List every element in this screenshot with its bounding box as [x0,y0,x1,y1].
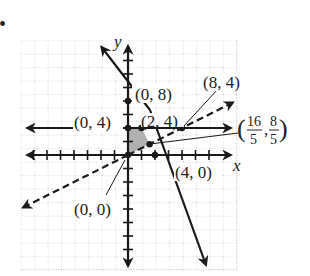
svg-text:5: 5 [250,132,257,147]
label-4-0: (4, 0) [175,163,212,182]
point-0-8 [125,98,131,104]
label-0-8: (0, 8) [135,85,172,104]
svg-text:16: 16 [247,114,261,129]
label-2-4: (2, 4) [141,112,178,131]
svg-text:5: 5 [270,132,277,147]
svg-text:,: , [264,120,268,139]
problem-bullet: • [0,13,6,35]
point-4-0 [152,152,158,158]
point-0-0 [125,152,131,158]
linear-programming-graph: • x y [0,0,310,276]
y-axis-label: y [112,32,122,51]
svg-text:(: ( [237,114,246,143]
svg-text:): ) [279,114,288,143]
label-0-4: (0, 4) [74,113,111,132]
label-8-4: (8, 4) [203,73,240,92]
point-0-4 [125,125,131,131]
x-axis-label: x [232,156,241,175]
label-0-0: (0, 0) [74,200,111,219]
svg-text:8: 8 [270,114,277,129]
label-16-5-8-5: ( 16 5 , 8 5 ) [237,111,288,149]
